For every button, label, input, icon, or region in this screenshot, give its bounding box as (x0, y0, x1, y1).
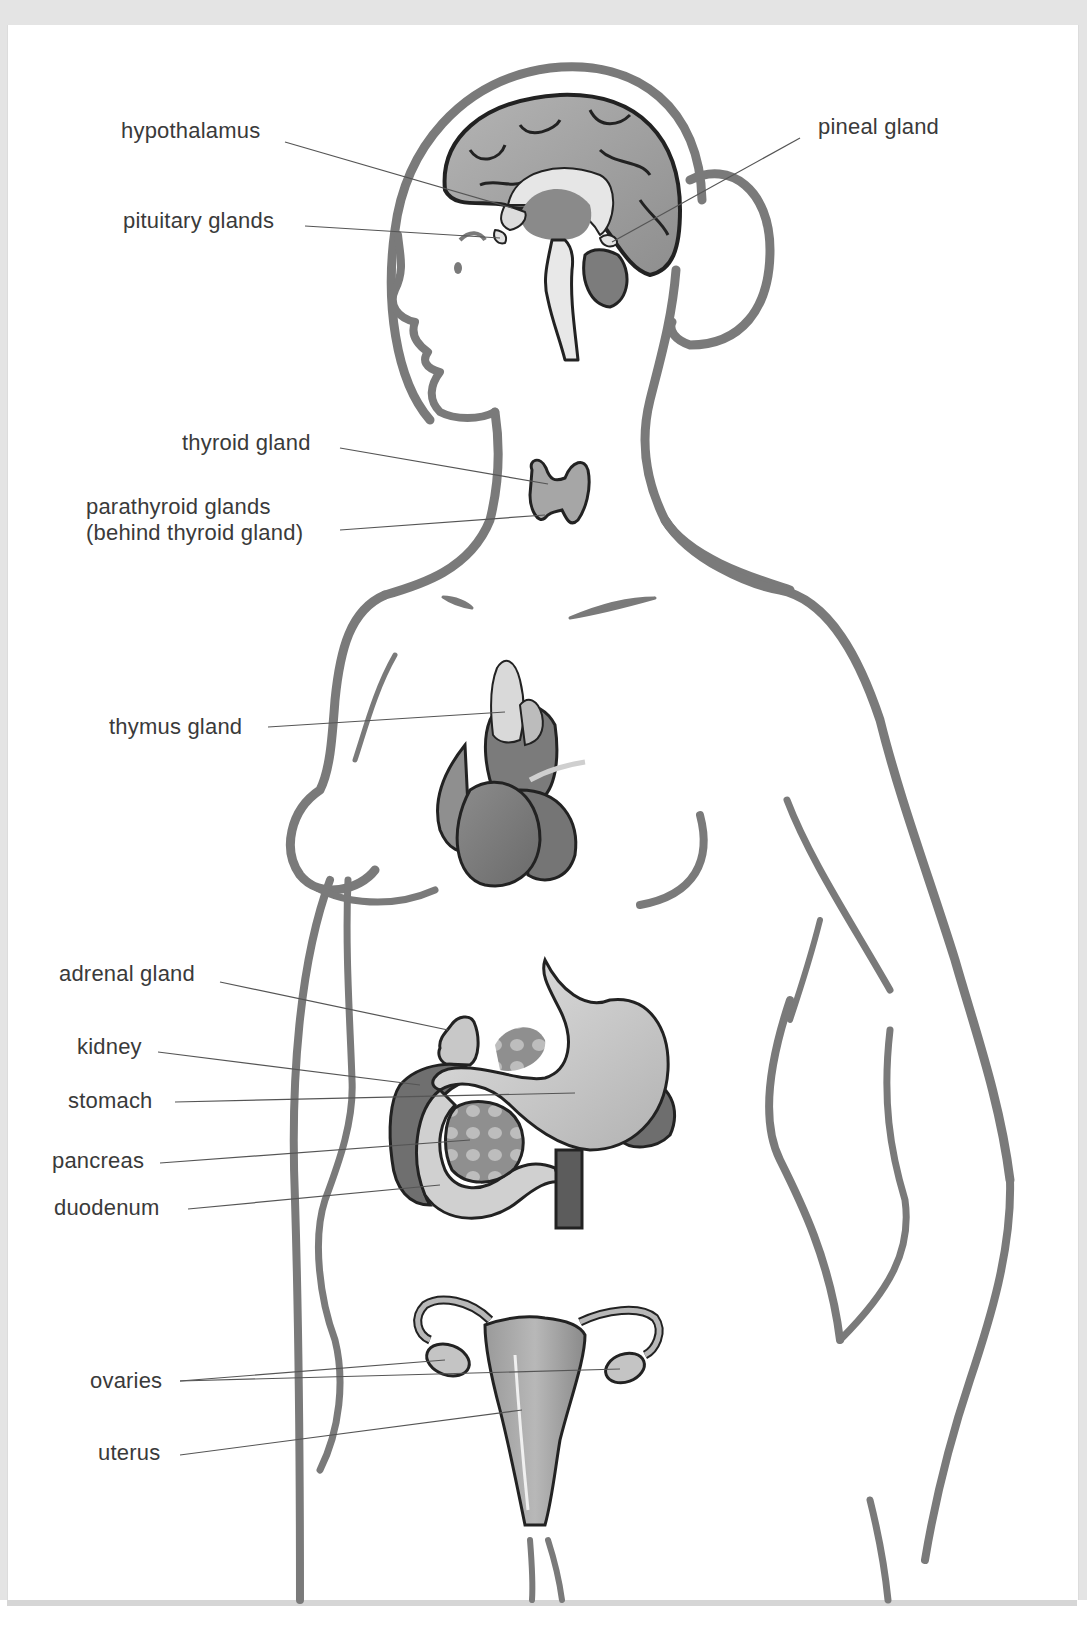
neck-front (385, 412, 498, 595)
right-breast (640, 815, 704, 905)
label-parathyroid-glands: parathyroid glands (86, 494, 271, 520)
left-chest-line (355, 655, 395, 760)
cerebellum (584, 250, 627, 307)
neck-back (645, 270, 790, 590)
hair-bun (671, 174, 770, 345)
right-waist (769, 1000, 840, 1340)
label-ovaries: ovaries (90, 1368, 162, 1394)
label-pancreas: pancreas (52, 1148, 144, 1174)
thyroid-organ (530, 460, 589, 523)
right-arm-inner (787, 800, 890, 990)
leader-thymus (268, 712, 505, 727)
collarbone-right (570, 598, 655, 618)
label-kidney: kidney (77, 1034, 142, 1060)
collarbone-left (443, 597, 472, 608)
label-parathyroid-note: (behind thyroid gland) (86, 520, 303, 546)
label-thyroid-gland: thyroid gland (182, 430, 311, 456)
inner-thigh-right (548, 1540, 562, 1600)
fallopian-tube-left (418, 1300, 490, 1340)
uterus-organ (485, 1317, 585, 1525)
label-pituitary-glands: pituitary glands (123, 208, 274, 234)
left-torso (290, 595, 385, 890)
label-adrenal-gland: adrenal gland (59, 961, 195, 987)
body-outline (290, 67, 1010, 1600)
left-waist (318, 880, 352, 1470)
reproductive-organs (418, 1300, 659, 1525)
adrenal-organ (439, 1017, 478, 1065)
leader-parathyroid (340, 515, 545, 530)
leader-uterus (180, 1410, 522, 1455)
label-pineal-gland: pineal gland (818, 114, 939, 140)
leader-adrenal (220, 982, 448, 1030)
leader-duodenum (188, 1185, 440, 1209)
label-stomach: stomach (68, 1088, 153, 1114)
label-thymus-gland: thymus gland (109, 714, 242, 740)
face-nostril-mark (454, 262, 462, 274)
right-shoulder (665, 520, 1010, 1180)
right-hip (870, 1500, 888, 1600)
leader-thyroid (340, 448, 548, 484)
left-arm-outer (294, 880, 330, 1600)
label-duodenum: duodenum (54, 1195, 160, 1221)
heart-main (457, 782, 540, 886)
label-uterus: uterus (98, 1440, 160, 1466)
right-forearm-inner (840, 1030, 906, 1340)
pituitary-organ (494, 230, 506, 243)
brainstem (545, 240, 578, 360)
inner-thigh-left (530, 1540, 532, 1600)
spine-segment (556, 1150, 582, 1228)
endocrine-diagram (0, 0, 1087, 1625)
pancreas-tail-behind (495, 1027, 545, 1071)
pancreas-organ (446, 1102, 524, 1183)
ovary-left (422, 1338, 474, 1381)
label-hypothalamus: hypothalamus (121, 118, 260, 144)
heart-thymus (438, 661, 585, 886)
leader-kidney (158, 1052, 420, 1085)
right-forearm-outer (925, 1180, 1010, 1560)
right-arm-lower-inner (790, 920, 820, 1020)
thymus-left-lobe (491, 661, 524, 743)
ovary-right (601, 1348, 648, 1388)
brain (445, 95, 680, 360)
